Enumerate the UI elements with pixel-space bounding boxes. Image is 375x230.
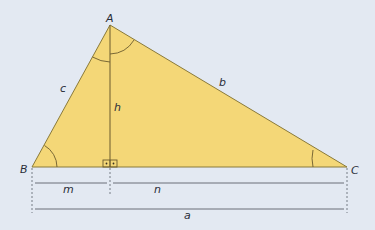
side-label-b: b: [219, 76, 226, 89]
side-label-a: a: [184, 209, 191, 222]
side-label-h: h: [114, 101, 121, 114]
triangle-abc: [32, 25, 347, 167]
side-label-c: c: [60, 82, 66, 95]
side-label-n: n: [154, 183, 161, 196]
vertex-label-a: A: [105, 12, 114, 25]
side-label-m: m: [63, 183, 74, 196]
vertex-label-b: B: [20, 163, 28, 176]
vertex-label-c: C: [351, 164, 359, 177]
triangle-diagram: A B C c b h m n a: [0, 0, 375, 230]
